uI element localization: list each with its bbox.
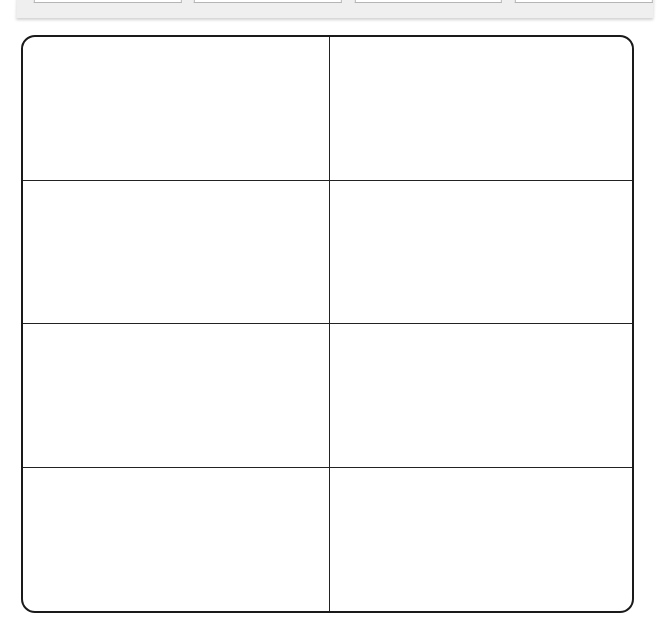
- cell-r4-c1[interactable]: [23, 468, 330, 612]
- strip-box-4: [515, 0, 653, 3]
- cell-r1-c2[interactable]: [330, 37, 632, 181]
- top-strip-panel: [16, 0, 654, 18]
- cell-r2-c2[interactable]: [330, 181, 632, 325]
- strip-box-3: [355, 0, 502, 3]
- strip-box-2: [194, 0, 342, 3]
- cell-r3-c2[interactable]: [330, 324, 632, 468]
- cell-r1-c1[interactable]: [23, 37, 330, 181]
- cell-r4-c2[interactable]: [330, 468, 632, 612]
- cell-r2-c1[interactable]: [23, 181, 330, 325]
- cell-r3-c1[interactable]: [23, 324, 330, 468]
- strip-box-1: [34, 0, 182, 3]
- blank-grid-table: [21, 35, 634, 613]
